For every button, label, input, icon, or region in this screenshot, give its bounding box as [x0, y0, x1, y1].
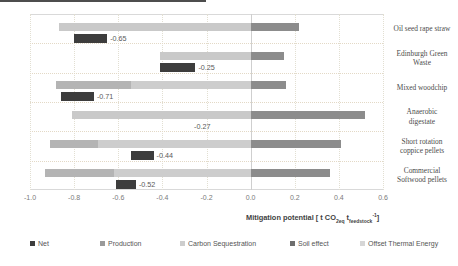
category-label-line: Commercial — [388, 166, 456, 175]
legend-swatch — [100, 241, 105, 246]
category-label: Short rotationcoppice pellets — [388, 137, 456, 155]
x-axis-title: Mitigation potential [ t CO2eq tfeedstoc… — [246, 212, 446, 224]
bar-group: -0.71 — [30, 73, 383, 102]
stacked-bar — [30, 111, 383, 119]
category-label-line: Mixed woodchip — [388, 83, 456, 92]
gridline-0.6 — [383, 14, 384, 190]
bar-group: -0.25 — [30, 43, 383, 72]
stacked-bar — [30, 23, 383, 31]
bar-segment — [251, 81, 286, 89]
x-axis-title-sub2: feedstock — [349, 218, 372, 224]
bar-segment — [251, 23, 300, 31]
net-value-label: -0.65 — [110, 34, 126, 43]
bar-segment — [251, 140, 341, 148]
stacked-bar — [30, 169, 383, 177]
stacked-bar — [30, 52, 383, 60]
legend-item[interactable]: Net — [30, 240, 49, 247]
legend-swatch — [290, 241, 295, 246]
bar-segment — [160, 52, 250, 60]
net-value-label: -0.44 — [157, 151, 173, 160]
category-label-line: Edinburgh Green — [388, 49, 456, 58]
category-label-line: Waste — [388, 58, 456, 67]
net-bar — [116, 180, 136, 189]
x-axis-title-sub1: 2eq — [336, 218, 345, 224]
legend-item[interactable]: Production — [100, 240, 141, 247]
bar-segment — [59, 23, 251, 31]
bar-group: -0.27 — [30, 102, 383, 131]
top-rule — [0, 0, 206, 2]
bar-segment — [56, 81, 131, 89]
category-label: Edinburgh GreenWaste — [388, 49, 456, 67]
legend-label: Carbon Sequestration — [188, 240, 256, 247]
bar-segment — [98, 140, 250, 148]
stacked-bar — [30, 81, 383, 89]
x-tick-label: -0.2 — [187, 194, 227, 201]
legend-item[interactable]: Carbon Sequestration — [180, 240, 256, 247]
x-axis-title-end: ] — [377, 213, 379, 222]
legend: NetProductionCarbon SequestrationSoil ef… — [22, 240, 442, 254]
net-value-label: -0.52 — [139, 180, 155, 189]
legend-swatch — [360, 241, 365, 246]
x-tick-label: -0.4 — [142, 194, 182, 201]
stacked-bar — [30, 140, 383, 148]
x-tick-label: 0.0 — [231, 194, 271, 201]
category-label: Oil seed rape straw — [388, 24, 456, 33]
net-bar — [131, 151, 153, 160]
category-label-line: Anaerobic — [388, 107, 456, 116]
category-label-line: Softwood pellets — [388, 175, 456, 184]
category-label: Mixed woodchip — [388, 83, 456, 92]
plot-area: -0.65-0.25-0.71-0.27-0.44-0.52 — [30, 14, 383, 190]
bar-segment — [251, 111, 366, 119]
category-label-line: coppice pellets — [388, 146, 456, 155]
bar-segment — [114, 169, 251, 177]
legend-label: Offset Thermal Energy — [368, 240, 438, 247]
category-label-line: digestate — [388, 117, 456, 126]
legend-label: Soil effect — [298, 240, 329, 247]
net-value-label: -0.27 — [194, 122, 210, 131]
bar-group: -0.44 — [30, 131, 383, 160]
category-label-line: Oil seed rape straw — [388, 24, 456, 33]
net-bar — [61, 92, 94, 101]
net-bar — [160, 63, 195, 72]
net-value-label: -0.25 — [198, 63, 214, 72]
category-label: CommercialSoftwood pellets — [388, 166, 456, 184]
bar-segment — [251, 169, 330, 177]
x-tick-label: -0.8 — [54, 194, 94, 201]
x-tick-label: -0.6 — [98, 194, 138, 201]
legend-label: Net — [38, 240, 49, 247]
mitigation-potential-chart: -0.65-0.25-0.71-0.27-0.44-0.52 Oil seed … — [0, 0, 458, 266]
x-tick-label: -1.0 — [10, 194, 50, 201]
net-value-label: -0.71 — [97, 92, 113, 101]
x-tick-label: 0.2 — [275, 194, 315, 201]
net-bar — [74, 34, 107, 43]
bar-segment — [50, 140, 99, 148]
x-tick-label: 0.6 — [363, 194, 403, 201]
legend-swatch — [30, 241, 35, 246]
x-axis-title-main: Mitigation potential [ t CO — [246, 213, 336, 222]
bar-segment — [131, 81, 250, 89]
category-label-line: Short rotation — [388, 137, 456, 146]
legend-item[interactable]: Offset Thermal Energy — [360, 240, 438, 247]
legend-swatch — [180, 241, 185, 246]
legend-label: Production — [108, 240, 141, 247]
bar-segment — [45, 169, 113, 177]
category-label: Anaerobicdigestate — [388, 107, 456, 125]
legend-item[interactable]: Soil effect — [290, 240, 329, 247]
bar-group: -0.65 — [30, 14, 383, 43]
x-tick-label: 0.4 — [319, 194, 359, 201]
bar-segment — [72, 111, 251, 119]
bar-segment — [251, 52, 284, 60]
bar-group: -0.52 — [30, 161, 383, 190]
